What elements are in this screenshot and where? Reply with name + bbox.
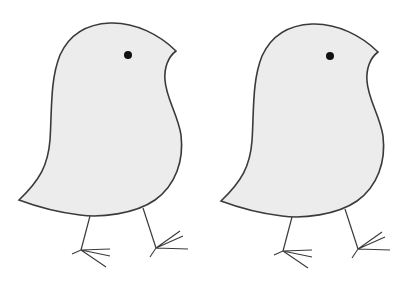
birds-illustration xyxy=(0,0,404,284)
right-bird xyxy=(221,24,390,268)
left-bird xyxy=(19,23,188,267)
illustration-canvas xyxy=(0,0,404,284)
